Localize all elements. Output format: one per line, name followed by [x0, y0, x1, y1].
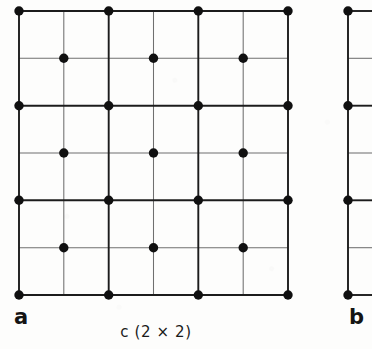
atom-dot-centred — [149, 243, 158, 252]
atom-dot — [283, 6, 292, 15]
atom-dot — [283, 101, 292, 110]
atom-dot-centred — [239, 243, 248, 252]
structure-caption: c (2 × 2) — [96, 323, 216, 341]
atom-dot — [14, 6, 23, 15]
atom-dot — [194, 196, 203, 205]
atom-dot — [104, 6, 113, 15]
atom-dot — [283, 290, 292, 299]
lattice-diagram — [0, 0, 372, 349]
atom-dot — [194, 101, 203, 110]
atom-dot — [104, 290, 113, 299]
atom-dot-centred — [149, 54, 158, 63]
atom-dot — [343, 196, 352, 205]
atom-dot-centred — [59, 243, 68, 252]
atom-dot — [343, 290, 352, 299]
atom-dot — [104, 101, 113, 110]
atom-dot-centred — [59, 148, 68, 157]
atom-dot — [194, 290, 203, 299]
atom-dot — [14, 101, 23, 110]
atom-dot — [343, 6, 352, 15]
atom-dot-centred — [239, 148, 248, 157]
atom-dot — [194, 6, 203, 15]
atom-dot — [14, 290, 23, 299]
atom-dot-centred — [239, 54, 248, 63]
atom-dot — [283, 196, 292, 205]
paper-background — [0, 0, 372, 349]
atom-dot — [14, 196, 23, 205]
figure-container: a b c (2 × 2) — [0, 0, 372, 349]
atom-dot — [104, 196, 113, 205]
atom-dot — [343, 101, 352, 110]
atom-dot-centred — [149, 148, 158, 157]
panel-label-b: b — [349, 307, 364, 328]
panel-label-a: a — [14, 307, 28, 328]
atom-dot-centred — [59, 54, 68, 63]
